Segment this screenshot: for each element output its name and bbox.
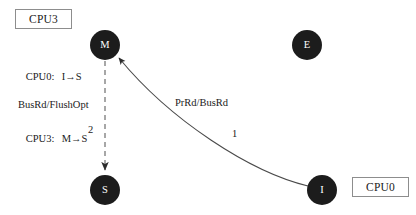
cpu3-box: CPU3 [15, 9, 72, 29]
edge-label-busrd-flushopt: BusRd/FlushOpt [18, 99, 89, 110]
edge-order-m-to-s: 2 [88, 124, 93, 135]
state-node-i-label: I [307, 175, 337, 205]
transition-line-cpu3: CPU3:M→S [10, 121, 87, 159]
transition-line-cpu0: CPU0:I→S [10, 58, 87, 96]
state-node-s-label: S [90, 175, 120, 205]
transition-line-cpu3-change: M→S [62, 133, 88, 144]
transition-line-cpu3-who: CPU3: [26, 133, 62, 146]
cpu0-box: CPU0 [352, 177, 409, 197]
state-node-e-label: E [292, 30, 322, 60]
state-node-m-label: M [90, 30, 120, 60]
edge-order-i-to-m: 1 [232, 128, 237, 139]
edge-label-prrd-busrd: PrRd/BusRd [175, 97, 228, 108]
mesi-state-diagram: M E S I CPU3 CPU0 CPU0:I→S CPU3:M→S BusR… [0, 0, 416, 215]
transition-line-cpu0-change: I→S [62, 71, 82, 82]
transition-line-cpu0-who: CPU0: [26, 71, 62, 84]
